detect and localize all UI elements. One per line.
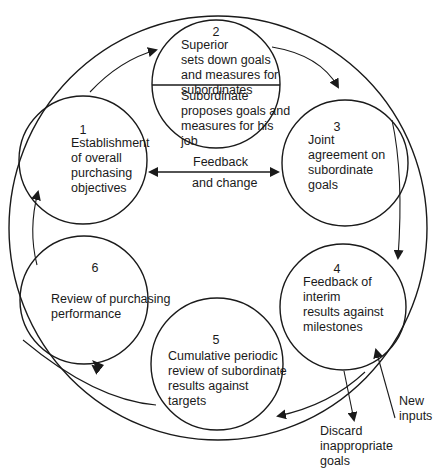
stage-5-label: Cumulative periodic review of subordinat… [168, 349, 287, 409]
new-inputs-label: New inputs [399, 394, 432, 424]
stage-5-number: 5 [211, 333, 221, 348]
stage-6-number: 6 [90, 261, 100, 276]
stage-1-label: Establishment of overall purchasing obje… [71, 136, 150, 196]
feedback-label: Feedback [193, 155, 248, 170]
arrow-1-to-2 [90, 50, 156, 92]
stage-2-bottom-label: Subordinate proposes goals and measures … [181, 89, 290, 149]
stage-4-label: Feedback of interim results against mile… [303, 275, 384, 335]
and-change-label: and change [192, 176, 257, 191]
arrow-6-to-1 [33, 192, 38, 265]
stage-3-label: Joint agreement on subordinate goals [308, 133, 385, 193]
new-inputs-arrow [376, 350, 395, 418]
stage-6-label: Review of purchasing performance [51, 292, 171, 322]
arrow-3-to-4 [392, 120, 400, 258]
discard-label: Discard inappropriate goals [320, 424, 393, 469]
arrow-2-to-3 [272, 47, 338, 87]
